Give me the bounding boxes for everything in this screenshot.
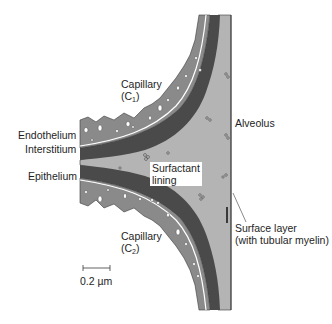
surfactant-text-2: lining: [152, 174, 200, 186]
label-capillary-c2: Capillary (C2): [121, 230, 162, 258]
surfactant-text-1: Surfactant: [152, 162, 200, 174]
label-surface-layer: Surface layer (with tubular myelin): [235, 222, 329, 246]
surface-layer-leader: [233, 193, 246, 222]
c1-index: 1: [132, 96, 136, 103]
capillary-c1-sub-text: (C1): [121, 90, 162, 106]
label-capillary-c1: Capillary (C1): [121, 78, 162, 106]
label-interstitium: Interstitium: [25, 143, 76, 155]
capillary-c2-text: Capillary: [121, 230, 162, 242]
c2-prefix: (C: [121, 242, 132, 254]
c1-prefix: (C: [121, 90, 132, 102]
capillary-c1-text: Capillary: [121, 78, 162, 90]
surface-layer-text-2: (with tubular myelin): [235, 234, 329, 246]
label-surfactant-lining: Surfactant lining: [150, 162, 202, 186]
label-endothelium: Endothelium: [18, 129, 76, 141]
label-scale-bar: 0.2 µm: [80, 275, 112, 287]
tubular-myelin-mark: [226, 207, 228, 223]
label-alveolus: Alveolus: [235, 117, 275, 129]
c2-index: 2: [132, 248, 136, 255]
capillary-c2-sub-text: (C2): [121, 242, 162, 258]
surface-layer-text-1: Surface layer: [235, 222, 329, 234]
label-epithelium: Epithelium: [28, 170, 77, 182]
scale-bar: [83, 265, 110, 271]
